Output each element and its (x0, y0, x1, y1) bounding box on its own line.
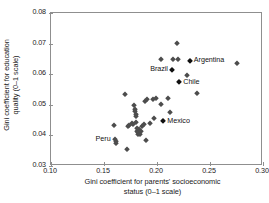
data-point (133, 114, 138, 119)
y-axis-label-container: Gini coefficient for education quality (… (0, 0, 22, 170)
y-tick-label: 0.05 (20, 100, 46, 108)
y-tick-mark (49, 13, 53, 14)
point-label-brazil: Brazil (150, 65, 168, 73)
data-point (123, 91, 128, 96)
plot-area: PeruMexicoBrazilChileArgentina (50, 12, 262, 165)
data-point (142, 122, 147, 127)
y-tick-mark (49, 44, 53, 45)
data-point (176, 56, 181, 61)
data-point-mexico (160, 118, 166, 124)
x-tick-label: 0.30 (247, 167, 269, 175)
data-point (165, 96, 170, 101)
x-axis-label-line2: status (0–1 scale) (40, 187, 265, 197)
x-tick-label: 0.20 (141, 167, 171, 175)
y-tick-label: 0.06 (20, 69, 46, 77)
point-label-mexico: Mexico (167, 117, 189, 125)
y-tick-mark (49, 105, 53, 106)
data-point (125, 146, 130, 151)
y-axis-label: Gini coefficient for education quality (… (2, 39, 20, 131)
data-point-argentina (187, 58, 193, 64)
x-tick-label: 0.25 (194, 167, 224, 175)
y-tick-label: 0.08 (20, 8, 46, 16)
x-axis-label-line1: Gini coefficient for parents' socioecono… (85, 177, 221, 186)
data-point (159, 101, 164, 106)
x-axis-label: Gini coefficient for parents' socioecono… (40, 177, 265, 196)
data-point (113, 141, 118, 146)
data-point (234, 60, 239, 65)
y-axis-label-line1: Gini coefficient for education (2, 39, 11, 131)
point-label-chile: Chile (183, 78, 199, 86)
data-point (151, 115, 156, 120)
data-point (195, 91, 200, 96)
x-tick-label: 0.15 (88, 167, 118, 175)
data-point (175, 40, 180, 45)
data-point-chile (176, 79, 182, 85)
point-label-peru: Peru (96, 135, 111, 143)
y-tick-label: 0.04 (20, 130, 46, 138)
data-point (167, 110, 172, 115)
data-point (147, 120, 152, 125)
data-point (144, 138, 149, 143)
data-point-brazil (169, 67, 175, 73)
y-axis-label-line2: quality (0–1 scale) (11, 39, 20, 131)
point-label-argentina: Argentina (194, 56, 224, 64)
data-point (159, 56, 164, 61)
y-tick-mark (49, 74, 53, 75)
x-tick-label: 0.10 (35, 167, 65, 175)
data-point (139, 128, 144, 133)
data-point (145, 96, 150, 101)
y-tick-mark (49, 135, 53, 136)
data-point (111, 122, 116, 127)
y-tick-label: 0.07 (20, 39, 46, 47)
scatter-chart-figure: Gini coefficient for education quality (… (0, 0, 269, 203)
